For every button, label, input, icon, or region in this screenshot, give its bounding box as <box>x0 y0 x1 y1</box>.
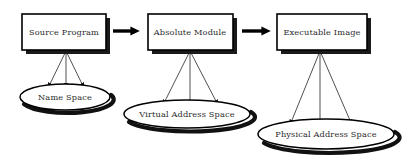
fan-line-left <box>48 51 66 88</box>
fan-absolute-module <box>163 51 218 105</box>
diagram-canvas: Name Space Source Program Virtual Addres… <box>0 0 406 162</box>
fan-source-program <box>48 51 84 88</box>
name-space-label: Name Space <box>38 92 92 102</box>
address-binding-diagram: Name Space Source Program Virtual Addres… <box>0 0 406 162</box>
stage-executable-image: Physical Address Space Executable Image <box>258 14 400 153</box>
physical-address-space-label: Physical Address Space <box>275 129 377 139</box>
fan-line-left <box>163 51 190 105</box>
stage-absolute-module: Virtual Address Space Absolute Module <box>124 14 255 131</box>
virtual-address-space-label: Virtual Address Space <box>138 109 234 119</box>
fan-line-right <box>66 51 84 88</box>
stage-source-program: Name Space Source Program <box>20 14 114 113</box>
fan-line-right <box>320 51 352 125</box>
fan-line-left <box>290 51 320 125</box>
absolute-module-label: Absolute Module <box>153 27 226 37</box>
fan-line-right <box>190 51 218 105</box>
fan-executable-image <box>290 51 352 125</box>
source-program-label: Source Program <box>29 27 99 37</box>
executable-image-label: Executable Image <box>283 27 360 37</box>
